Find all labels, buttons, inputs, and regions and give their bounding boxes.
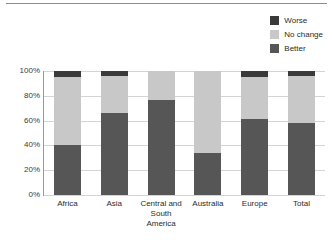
stacked-bar[interactable] [54, 71, 81, 195]
x-axis-tick-label-line: Australia [184, 199, 231, 209]
y-axis-tick-label: 100% [20, 67, 40, 75]
bar-segment-no-change[interactable] [148, 71, 175, 100]
x-axis-tick-label-line: South America [138, 209, 185, 229]
y-axis-tick-label: 20% [24, 166, 40, 174]
bar-segment-no-change[interactable] [288, 76, 315, 123]
bar-slot [138, 71, 185, 195]
stacked-bar[interactable] [148, 71, 175, 195]
x-axis-tick-labels: AfricaAsiaCentral andSouth AmericaAustra… [44, 199, 325, 229]
bar-segment-better[interactable] [101, 113, 128, 195]
bar-slot [184, 71, 231, 195]
bar-segment-no-change[interactable] [241, 77, 268, 119]
legend-label-no-change: No change [284, 30, 323, 39]
bar-segment-better[interactable] [148, 100, 175, 195]
bar-series-group [44, 71, 325, 195]
bar-segment-better[interactable] [241, 119, 268, 195]
legend-label-worse: Worse [284, 16, 307, 25]
bar-segment-better[interactable] [288, 123, 315, 195]
plot-area [44, 71, 325, 195]
bar-segment-better[interactable] [54, 145, 81, 195]
legend-item-better: Better [270, 43, 323, 54]
x-axis-tick-label-line: Central and [138, 199, 185, 209]
legend-label-better: Better [284, 44, 305, 53]
bar-slot [278, 71, 325, 195]
stacked-bar[interactable] [288, 71, 315, 195]
bar-slot [44, 71, 91, 195]
x-axis-tick-label: Total [278, 199, 325, 229]
x-axis-tick-label-line: Africa [44, 199, 91, 209]
bar-slot [91, 71, 138, 195]
legend-swatch-no-change [270, 30, 279, 39]
x-axis-tick-label: Europe [231, 199, 278, 229]
stacked-bar[interactable] [241, 71, 268, 195]
x-axis-tick-label: Central andSouth America [138, 199, 185, 229]
bar-segment-better[interactable] [194, 153, 221, 195]
x-axis-tick-label-line: Total [278, 199, 325, 209]
legend-swatch-better [270, 44, 279, 53]
chart-legend: Worse No change Better [270, 15, 323, 54]
y-axis-tick-label: 80% [24, 92, 40, 100]
legend-swatch-worse [270, 16, 279, 25]
y-axis-tick-label: 60% [24, 117, 40, 125]
y-axis-tick-label: 0% [28, 191, 40, 199]
gridline [44, 195, 325, 196]
bar-segment-no-change[interactable] [54, 77, 81, 145]
x-axis-tick-label-line: Europe [231, 199, 278, 209]
bar-segment-no-change[interactable] [194, 71, 221, 153]
legend-item-no-change: No change [270, 29, 323, 40]
x-axis-tick-label-line: Asia [91, 199, 138, 209]
y-axis-tick-label: 40% [24, 141, 40, 149]
stacked-bar[interactable] [194, 71, 221, 195]
x-axis-tick-label: Asia [91, 199, 138, 229]
bar-segment-no-change[interactable] [101, 76, 128, 113]
bar-slot [231, 71, 278, 195]
legend-item-worse: Worse [270, 15, 323, 26]
x-axis-tick-label: Africa [44, 199, 91, 229]
top-divider-rule [6, 3, 327, 4]
x-axis-tick-label: Australia [184, 199, 231, 229]
stacked-bar[interactable] [101, 71, 128, 195]
